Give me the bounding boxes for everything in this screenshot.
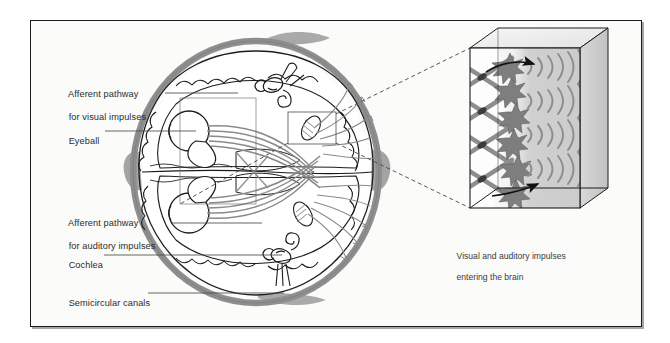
label-semicircular-canals: Semicircular canals xyxy=(58,287,150,321)
inset-3d-block xyxy=(452,28,608,210)
label-afferent-visual-line2: for visual impulses xyxy=(69,112,146,122)
label-afferent-auditory-line1: Afferent pathway xyxy=(68,218,138,228)
label-semicircular-canals-text: Semicircular canals xyxy=(69,298,151,308)
anatomy-figure: Afferent pathway for visual impulses Eye… xyxy=(0,0,670,343)
inset-caption-line2: entering the brain xyxy=(457,272,524,282)
label-afferent-visual-line1: Afferent pathway xyxy=(68,89,138,99)
label-eyeball-text: Eyeball xyxy=(69,136,100,146)
label-cochlea: Cochlea xyxy=(58,249,103,283)
label-cochlea-text: Cochlea xyxy=(69,260,103,270)
inset-caption: Visual and auditory impulses entering th… xyxy=(447,240,566,294)
label-eyeball: Eyeball xyxy=(58,125,99,159)
inset-caption-line1: Visual and auditory impulses xyxy=(457,251,566,261)
